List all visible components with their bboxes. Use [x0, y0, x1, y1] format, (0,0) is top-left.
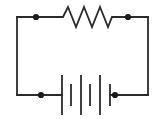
node-bottom-left	[38, 92, 44, 98]
circuit-diagram-canvas	[0, 0, 168, 119]
node-top-left	[33, 14, 39, 20]
node-top-right	[125, 14, 131, 20]
circuit-diagram-figure	[0, 0, 168, 119]
node-bottom-right	[112, 92, 118, 98]
